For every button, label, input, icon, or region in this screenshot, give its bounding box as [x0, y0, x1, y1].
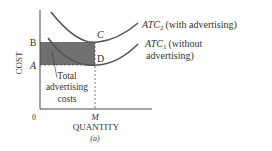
atc2-description: (with advertising): [165, 19, 236, 31]
atc2-curve: [51, 12, 138, 42]
shaded-label-line1: Total: [57, 71, 77, 81]
advertising-cost-diagram: B A 0 M C D COST QUANTITY (a) Total adve…: [0, 0, 272, 151]
point-D: D: [97, 53, 104, 64]
point-C: C: [97, 29, 104, 40]
atc2-subscript: 2: [160, 24, 164, 32]
shaded-advertising-costs: [40, 42, 95, 65]
atc2-name: ATC: [141, 19, 160, 30]
shaded-label-line2: advertising: [46, 82, 88, 92]
tick-A: A: [29, 60, 37, 71]
x-axis-title: QUANTITY: [73, 122, 120, 132]
shaded-label-line3: costs: [58, 94, 77, 104]
atc1-name: ATC: [144, 38, 163, 49]
tick-M: M: [90, 112, 99, 122]
y-axis-title: COST: [14, 51, 24, 75]
subfigure-label: (a): [90, 134, 100, 143]
tick-B: B: [30, 37, 37, 48]
atc1-label-line2: advertising): [146, 50, 194, 62]
origin-label: 0: [32, 113, 36, 122]
atc2-label: ATC2(with advertising): [141, 19, 237, 32]
atc1-description-1: (without: [168, 38, 202, 50]
